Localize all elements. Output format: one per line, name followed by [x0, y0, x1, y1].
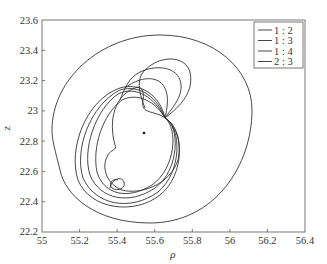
legend-entry: 2 : 3	[274, 56, 293, 67]
y-tick-label: 22.6	[20, 166, 38, 177]
series-1-3-petal	[120, 68, 181, 118]
y-tick-labels: 22.2 22.4 22.6 22.8 23 23.2 23.4 23.6	[20, 15, 39, 237]
chart: 55 55.2 55.4 55.6 55.8 56 56.2 56.4 ρ 22…	[0, 0, 327, 264]
x-tick-label: 55.6	[146, 235, 164, 246]
y-tick-label: 22.2	[20, 226, 38, 237]
y-tick-label: 22.8	[20, 136, 38, 147]
series-2-3-curve	[105, 87, 179, 191]
y-tick-label: 23.4	[20, 45, 39, 56]
legend: 1 : 2 1 : 3 1 : 4 2 : 3	[254, 22, 303, 68]
x-axis-label: ρ	[169, 248, 175, 260]
x-axis	[80, 229, 268, 232]
center-point-marker	[143, 132, 146, 135]
x-tick-label: 56.2	[258, 235, 276, 246]
y-axis-label: z	[0, 125, 12, 131]
y-tick-label: 23	[28, 105, 39, 116]
y-tick-label: 22.4	[20, 196, 39, 207]
x-tick-label: 55.4	[108, 235, 127, 246]
series-1-2-curve	[52, 35, 252, 223]
legend-entry: 1 : 3	[274, 35, 293, 46]
x-tick-label: 56	[225, 235, 236, 246]
y-axis	[42, 50, 45, 201]
x-tick-label: 55.8	[183, 235, 201, 246]
legend-entry: 1 : 2	[274, 25, 293, 36]
plot-curves	[52, 35, 252, 223]
x-tick-label: 56.4	[296, 235, 315, 246]
legend-entry: 1 : 4	[274, 46, 293, 57]
y-tick-label: 23.2	[20, 75, 38, 86]
series-1-3-curve	[75, 87, 179, 207]
x-tick-labels: 55 55.2 55.4 55.6 55.8 56 56.2 56.4	[37, 235, 315, 246]
x-tick-label: 55	[37, 235, 48, 246]
y-tick-label: 23.6	[20, 15, 38, 26]
x-tick-label: 55.2	[70, 235, 88, 246]
